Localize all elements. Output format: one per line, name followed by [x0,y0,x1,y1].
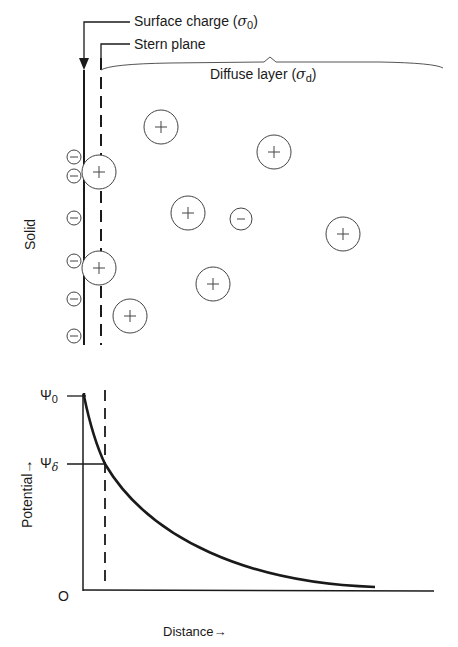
y-axis-label: Potential→ [19,460,35,528]
origin-label: O [58,588,69,604]
solid-label: Solid [22,219,38,250]
surface-charge-label: Surface charge (σ0) [134,13,258,29]
stern-plane-label: Stern plane [134,36,206,52]
potential-chart [67,390,434,591]
surface-ions [67,150,81,343]
diffuse-layer-label: Diffuse layer (σd) [210,66,316,82]
diffuse-ions [113,110,360,333]
psid-label: Ψδ [40,455,58,471]
x-axis [83,590,434,591]
potential-curve [84,393,375,587]
x-axis-label: Distance→ [163,624,227,639]
double-layer-diagram [0,0,458,647]
psi0-label: Ψ0 [40,387,58,403]
stern-ions [82,155,116,285]
surface-charge-pointer [79,22,130,70]
stern-plane-pointer [101,44,130,58]
